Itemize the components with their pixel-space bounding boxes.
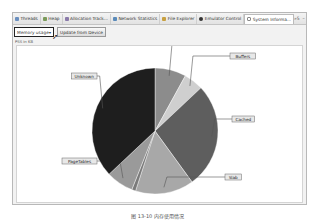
- memory-pie-chart: FreeBuffersCachedSlabPageTablesUnknown: [16, 45, 303, 203]
- tab-label: Threads: [21, 16, 38, 21]
- slice-label: Slab: [229, 175, 238, 180]
- slice-label: Unknown: [74, 74, 94, 79]
- tab-label: Allocation Track...: [70, 16, 108, 21]
- chevron-down-icon: ▾: [49, 30, 51, 35]
- tab-heap[interactable]: Heap: [41, 14, 63, 24]
- slice-label: Cached: [235, 117, 251, 122]
- file-icon: [162, 17, 166, 21]
- slice-label: Buffers: [235, 54, 250, 59]
- threads-icon: [15, 17, 19, 21]
- sysinfo-icon: [247, 17, 251, 21]
- slice-label: PageTables: [68, 159, 91, 164]
- toolbar: Memory usage ▾ ➚ Update from Device: [13, 25, 306, 39]
- tab-system-information[interactable]: System Informa...: [244, 14, 294, 24]
- tab-file-explorer[interactable]: File Explorer: [160, 14, 197, 24]
- tab-label: Emulator Control: [205, 16, 241, 21]
- select-value: Memory usage: [17, 30, 49, 35]
- tab-threads[interactable]: Threads: [13, 14, 41, 24]
- view-type-select[interactable]: Memory usage ▾ ➚: [14, 27, 54, 37]
- mouse-cursor-icon: ➚: [52, 33, 58, 41]
- leader-line: [190, 56, 230, 86]
- tab-emulator-control[interactable]: Emulator Control: [197, 14, 244, 24]
- tab-network-statistics[interactable]: Network Statistics: [111, 14, 160, 24]
- tab-label: Heap: [48, 16, 59, 21]
- emulator-icon: [199, 17, 203, 21]
- tab-label: File Explorer: [168, 16, 194, 21]
- figure-caption: 图 13-10 内存使用情况: [0, 212, 315, 219]
- pie-chart-svg: FreeBuffersCachedSlabPageTablesUnknown: [17, 46, 304, 204]
- minimize-button[interactable]: –: [303, 16, 305, 21]
- allocation-icon: [65, 17, 69, 21]
- ddms-window: Threads Heap Allocation Track... Network…: [12, 12, 307, 205]
- leader-line: [169, 46, 224, 76]
- tab-label: Network Statistics: [118, 16, 157, 21]
- tab-label: System Informa...: [253, 17, 291, 22]
- heap-icon: [43, 17, 47, 21]
- window-controls: »5 – □: [294, 16, 306, 21]
- update-from-device-button[interactable]: Update from Device: [57, 27, 106, 37]
- network-icon: [113, 17, 117, 21]
- tab-bar: Threads Heap Allocation Track... Network…: [13, 13, 306, 25]
- overflow-tabs-button[interactable]: »5: [294, 16, 300, 21]
- tab-allocation-tracker[interactable]: Allocation Track...: [63, 14, 111, 24]
